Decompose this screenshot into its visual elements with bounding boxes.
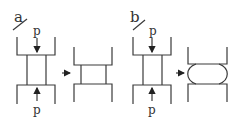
result-lower-die [188,84,227,102]
panel-a: a p p [13,8,112,117]
result-bulge-left [188,64,196,84]
force-label-top: p [33,24,41,38]
upper-die [17,37,55,55]
force-label-top: p [149,24,157,38]
force-label-bottom: p [148,103,156,117]
result-lower-die [74,84,112,102]
result-upper-die [188,47,227,64]
panel-b: b p p [130,8,227,117]
compression-diagram: a p p b p p [0,0,238,129]
lower-die [17,85,55,104]
result-bulge-right [219,64,227,84]
force-label-bottom: p [33,103,41,117]
result-upper-die [74,47,112,65]
panel-label-b: b [130,8,140,26]
